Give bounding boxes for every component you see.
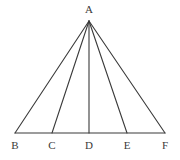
vertex-label-c: C [48, 140, 55, 151]
segment-ae [89, 21, 127, 133]
vertex-label-f: F [162, 140, 168, 151]
segment-af [89, 21, 165, 133]
geometry-figure: A B C D E F [0, 0, 180, 160]
segment-ab [15, 21, 89, 133]
geometry-canvas [0, 0, 180, 160]
vertex-label-e: E [124, 140, 131, 151]
segment-ac [52, 21, 89, 133]
vertex-label-a: A [85, 4, 93, 15]
vertex-label-b: B [11, 140, 18, 151]
vertex-label-d: D [85, 140, 93, 151]
segments-group [15, 21, 165, 133]
